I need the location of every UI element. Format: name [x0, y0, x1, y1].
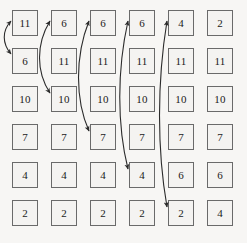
cell-r1c4: 6: [129, 10, 155, 36]
cell-r3c4: 10: [129, 86, 155, 112]
cell-r2c1: 6: [12, 48, 38, 74]
cell-r4c3: 7: [90, 124, 116, 150]
cell-r2c4: 11: [129, 48, 155, 74]
cell-r6c1: 2: [12, 200, 38, 226]
cell-r3c1: 10: [12, 86, 38, 112]
cell-r4c2: 7: [51, 124, 77, 150]
cell-r6c4: 2: [129, 200, 155, 226]
cell-r2c2: 11: [51, 48, 77, 74]
cell-r1c2: 6: [51, 10, 77, 36]
cell-r5c2: 4: [51, 162, 77, 188]
cell-r4c6: 7: [207, 124, 233, 150]
cell-r6c6: 4: [207, 200, 233, 226]
cell-r1c1: 11: [12, 10, 38, 36]
sorting-diagram: 11 6 6 6 4 2 6 11 11 11 11 11 10 10 10 1…: [0, 0, 247, 243]
cell-r6c2: 2: [51, 200, 77, 226]
cell-r4c4: 7: [129, 124, 155, 150]
cell-r3c6: 10: [207, 86, 233, 112]
cell-r3c5: 10: [168, 86, 194, 112]
cell-r1c3: 6: [90, 10, 116, 36]
box-grid: 11 6 6 6 4 2 6 11 11 11 11 11 10 10 10 1…: [0, 0, 247, 243]
cell-r5c5: 6: [168, 162, 194, 188]
cell-r6c3: 2: [90, 200, 116, 226]
cell-r2c3: 11: [90, 48, 116, 74]
cell-r5c4: 4: [129, 162, 155, 188]
cell-r5c6: 6: [207, 162, 233, 188]
cell-r4c5: 7: [168, 124, 194, 150]
cell-r4c1: 7: [12, 124, 38, 150]
cell-r3c3: 10: [90, 86, 116, 112]
cell-r5c1: 4: [12, 162, 38, 188]
cell-r1c6: 2: [207, 10, 233, 36]
cell-r2c5: 11: [168, 48, 194, 74]
cell-r2c6: 11: [207, 48, 233, 74]
cell-r5c3: 4: [90, 162, 116, 188]
cell-r1c5: 4: [168, 10, 194, 36]
cell-r6c5: 2: [168, 200, 194, 226]
cell-r3c2: 10: [51, 86, 77, 112]
